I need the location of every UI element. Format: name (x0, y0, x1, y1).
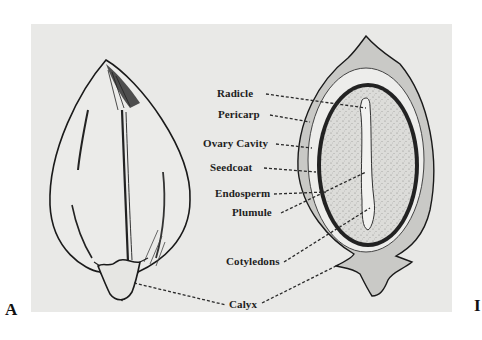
label-pericarp: Pericarp (218, 108, 260, 120)
label-calyx: Calyx (229, 298, 257, 310)
panel-label-b: I (474, 296, 481, 316)
label-radicle: Radicle (217, 87, 253, 99)
label-endosperm: Endosperm (215, 187, 270, 199)
panel-label-a: A (5, 300, 17, 320)
label-seedcoat: Seedcoat (210, 161, 252, 173)
external-fruit-drawing (50, 60, 190, 300)
label-cotyledons: Cotyledons (226, 255, 280, 267)
section-fruit-drawing (298, 36, 434, 296)
label-plumule: Plumule (232, 206, 272, 218)
label-ovary-cavity: Ovary Cavity (203, 137, 268, 149)
